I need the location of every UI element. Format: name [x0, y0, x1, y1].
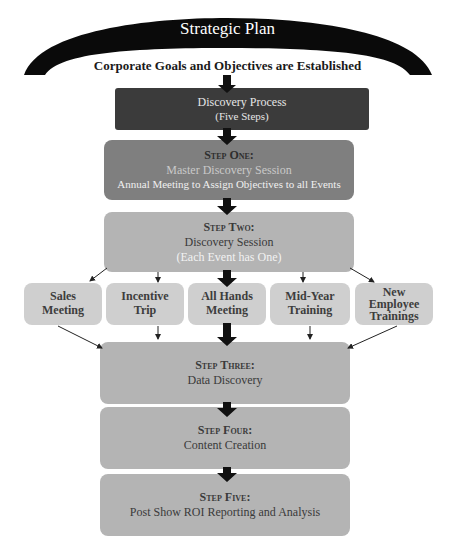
- strategic-plan-title: Strategic Plan: [0, 19, 455, 39]
- event-label: Trainings: [369, 310, 418, 322]
- event-label: All Hands: [201, 290, 253, 304]
- event-label: Mid-Year: [285, 290, 334, 304]
- step-one-detail: Annual Meeting to Assign Objectives to a…: [117, 178, 340, 192]
- step-three-box: Step Three: Data Discovery: [100, 342, 350, 404]
- event-sales-meeting: Sales Meeting: [24, 283, 102, 325]
- step-one-label: Step One:: [204, 148, 254, 163]
- event-new-employee-trainings: New Employee Trainings: [355, 283, 433, 325]
- step-five-label: Step Five:: [200, 490, 251, 505]
- event-label: Sales: [50, 290, 76, 304]
- step-five-title: Post Show ROI Reporting and Analysis: [130, 505, 320, 520]
- step-one-title: Master Discovery Session: [166, 163, 291, 178]
- event-mid-year-training: Mid-Year Training: [270, 283, 350, 325]
- step-two-title: Discovery Session: [185, 235, 274, 250]
- event-label: Meeting: [206, 304, 248, 318]
- event-label: Meeting: [42, 304, 84, 318]
- step-two-label: Step Two:: [203, 220, 254, 235]
- event-label: Trip: [134, 304, 156, 318]
- step-three-label: Step Three:: [195, 358, 255, 373]
- event-all-hands-meeting: All Hands Meeting: [188, 283, 266, 325]
- discovery-process-box: Discovery Process (Five Steps): [115, 88, 369, 130]
- step-two-detail: (Each Event has One): [177, 250, 282, 265]
- step-one-box: Step One: Master Discovery Session Annua…: [104, 140, 354, 200]
- discovery-process-subtitle: (Five Steps): [215, 110, 268, 124]
- step-four-title: Content Creation: [184, 438, 266, 453]
- step-four-box: Step Four: Content Creation: [100, 407, 350, 469]
- event-incentive-trip: Incentive Trip: [106, 283, 184, 325]
- corporate-goals-subtitle: Corporate Goals and Objectives are Estab…: [0, 58, 455, 74]
- step-five-box: Step Five: Post Show ROI Reporting and A…: [100, 474, 350, 536]
- discovery-process-title: Discovery Process: [198, 95, 287, 110]
- step-four-label: Step Four:: [198, 423, 252, 438]
- step-three-title: Data Discovery: [188, 373, 263, 388]
- step-two-box: Step Two: Discovery Session (Each Event …: [104, 212, 354, 272]
- event-label: Incentive: [121, 290, 168, 304]
- event-label: Training: [288, 304, 332, 318]
